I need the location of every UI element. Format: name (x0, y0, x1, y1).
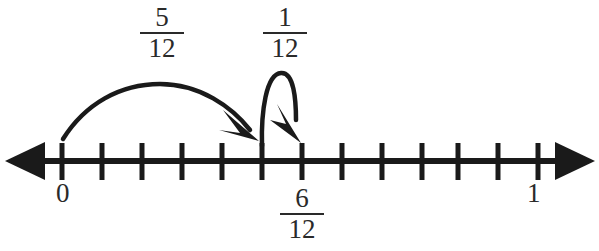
axis-right-arrow-icon (555, 142, 595, 180)
label-six-twelfths: 6 12 (280, 185, 324, 243)
number-line-diagram: 5 12 1 12 6 12 0 1 (0, 0, 599, 251)
label-five-twelfths-numerator: 5 (152, 4, 172, 32)
label-one-twelfth-numerator: 1 (275, 4, 295, 32)
label-six-twelfths-numerator: 6 (292, 185, 312, 213)
label-zero: 0 (56, 180, 70, 207)
axis-left-arrow-icon (5, 142, 45, 180)
label-one-twelfth-denominator: 12 (269, 34, 302, 62)
label-five-twelfths-denominator: 12 (146, 34, 179, 62)
jump-arc-five-twelfths (63, 84, 259, 141)
label-five-twelfths: 5 12 (140, 4, 184, 62)
jump-arc-one-twelfth (262, 73, 301, 146)
label-one: 1 (527, 180, 541, 207)
label-one-twelfth: 1 12 (263, 4, 307, 62)
label-six-twelfths-denominator: 12 (286, 215, 319, 243)
